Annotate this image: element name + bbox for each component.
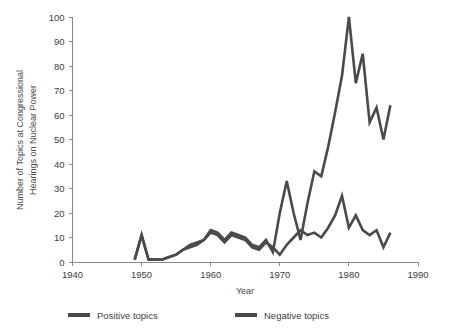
x-tick-label: 1950: [131, 269, 152, 280]
series-line-positive-topics: [135, 196, 391, 260]
y-tick-label: 50: [54, 134, 65, 145]
chart-svg: Number of Topics at Congressional Hearin…: [0, 0, 467, 333]
y-axis-ticks: 0102030405060708090100: [49, 12, 73, 268]
y-tick-label: 20: [54, 208, 65, 219]
y-tick-label: 0: [59, 257, 64, 268]
x-tick-label: 1990: [407, 269, 428, 280]
nuclear-power-hearings-chart: Number of Topics at Congressional Hearin…: [0, 0, 467, 333]
y-tick-label: 60: [54, 110, 65, 121]
x-axis-title: Year: [236, 286, 254, 296]
x-tick-label: 1960: [200, 269, 221, 280]
x-tick-label: 1970: [269, 269, 290, 280]
y-axis-title: Number of Topics at Congressional Hearin…: [15, 70, 38, 210]
y-tick-label: 30: [54, 183, 65, 194]
y-axis-title-line-2: Hearings on Nuclear Power: [28, 85, 38, 195]
y-tick-label: 10: [54, 232, 65, 243]
x-axis-ticks: 194019501960197019801990: [62, 262, 429, 280]
chart-legend: Positive topicsNegative topics: [68, 310, 329, 321]
legend-label: Negative topics: [264, 310, 329, 321]
y-tick-label: 70: [54, 85, 65, 96]
y-axis-title-line-1: Number of Topics at Congressional: [15, 70, 25, 210]
data-series-group: [135, 17, 391, 260]
x-tick-label: 1980: [338, 269, 359, 280]
legend-label: Positive topics: [97, 310, 158, 321]
y-tick-label: 100: [49, 12, 65, 23]
y-tick-label: 40: [54, 159, 65, 170]
x-tick-label: 1940: [62, 269, 83, 280]
y-tick-label: 90: [54, 36, 65, 47]
y-tick-label: 80: [54, 61, 65, 72]
